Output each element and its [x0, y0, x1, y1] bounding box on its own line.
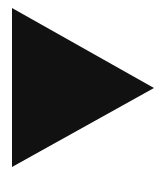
play-icon[interactable] [0, 0, 167, 176]
icon-canvas [0, 0, 167, 176]
play-triangle [12, 8, 154, 167]
